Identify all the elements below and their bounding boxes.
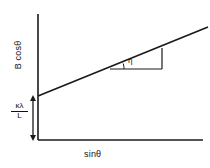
fit-line (38, 27, 208, 96)
angle-arc-icon (123, 64, 124, 70)
intercept-arrow-head-up-icon (30, 95, 36, 101)
y-axis-label: B cosθ (13, 25, 23, 85)
intercept-arrow-head-down-icon (30, 135, 36, 141)
intercept-label: κλ L (11, 102, 28, 121)
slope-angle-label: η (128, 56, 132, 65)
intercept-denominator: L (11, 112, 28, 120)
x-axis-label: sinθ (84, 149, 101, 159)
plot-figure: B cosθ sinθ κλ L η (0, 0, 210, 168)
intercept-numerator: κλ (11, 102, 28, 110)
plot-canvas (0, 0, 210, 168)
